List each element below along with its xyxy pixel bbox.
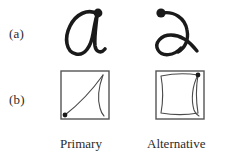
start-dot-icon [63,113,68,118]
caption-alternative: Alternative [147,136,205,152]
start-dot-icon [156,8,165,17]
trajectory-box-alternative [155,70,205,120]
box-alternative-svg [155,70,205,120]
caption-primary: Primary [60,136,102,152]
trajectory-box-primary [60,70,110,120]
start-dot-icon [94,9,103,18]
row-label-a: (a) [9,26,24,42]
row-label-b: (b) [9,92,25,108]
figure-container: (a) (b) [0,0,225,163]
glyph-primary-svg [58,2,116,60]
handwritten-glyph-primary [58,2,116,60]
box-primary-svg [60,70,110,120]
glyph-alternative-svg [148,2,206,60]
start-dot-icon [196,73,201,78]
handwritten-glyph-alternative [148,2,206,60]
